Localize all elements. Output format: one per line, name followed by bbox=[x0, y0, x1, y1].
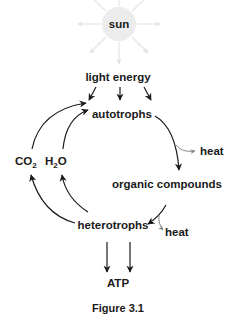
heat-label-autotrophs: heat bbox=[200, 145, 224, 157]
heterotrophs-to-co2-arrow bbox=[31, 175, 75, 223]
atp-label: ATP bbox=[107, 277, 129, 289]
h2o-label: H2O bbox=[45, 155, 67, 170]
autotrophs-to-organic-arrow bbox=[155, 116, 179, 170]
sun-label: sun bbox=[109, 18, 129, 30]
organic-to-heterotrophs-arrow bbox=[148, 205, 166, 224]
co2-to-autotrophs-arrow bbox=[32, 103, 86, 149]
energy-flow-diagram: sun light energy autotrophs heat organic… bbox=[0, 0, 236, 326]
heterotrophs-label: heterotrophs bbox=[78, 219, 149, 231]
sun-ray bbox=[90, 37, 106, 53]
h2o-to-autotrophs-arrow bbox=[63, 110, 88, 149]
light-to-autotrophs-arrow bbox=[89, 87, 96, 100]
organic-compounds-label: organic compounds bbox=[112, 178, 222, 190]
heat-arrow bbox=[159, 215, 163, 230]
heat-arrow bbox=[176, 145, 195, 151]
sun-ray bbox=[132, 0, 146, 11]
autotrophs-label: autotrophs bbox=[92, 108, 152, 120]
co2-label: CO2 bbox=[15, 155, 37, 170]
sun-ray bbox=[92, 0, 106, 11]
figure-caption: Figure 3.1 bbox=[92, 302, 144, 314]
heat-label-heterotrophs: heat bbox=[165, 226, 189, 238]
light-to-autotrophs-arrow bbox=[144, 87, 151, 100]
sun-ray bbox=[132, 37, 148, 53]
light-energy-label: light energy bbox=[85, 71, 151, 83]
heterotrophs-to-h2o-arrow bbox=[62, 175, 88, 212]
